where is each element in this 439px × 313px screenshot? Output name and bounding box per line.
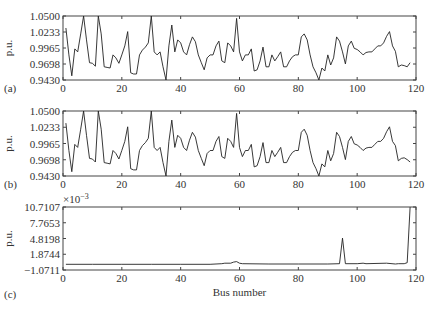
y-tick-label: 1.0233 — [30, 26, 61, 38]
x-tick-label: 20 — [116, 272, 128, 284]
x-tick-label: 60 — [234, 272, 246, 284]
x-tick-label: 0 — [60, 178, 66, 190]
y-tick-label: 1.0500 — [30, 105, 61, 117]
x-tick-label: 0 — [60, 82, 66, 94]
x-tick-label: 120 — [408, 272, 425, 284]
voltage-profile-figure: 0204060801001201.05001.02330.99650.96980… — [0, 0, 439, 313]
plot-frame-c — [63, 207, 416, 270]
x-tick-label: 0 — [60, 272, 66, 284]
x-axis-label: Bus number — [213, 286, 267, 298]
y-tick-label: −1.0711 — [24, 264, 60, 276]
x-tick-label: 40 — [175, 272, 187, 284]
x-tick-label: 20 — [116, 178, 128, 190]
y-tick-label: 1.0500 — [30, 10, 61, 22]
x-tick-label: 100 — [349, 272, 366, 284]
x-tick-label: 60 — [234, 178, 246, 190]
y-tick-label: 0.9698 — [30, 154, 61, 166]
y-tick-label: 0.9698 — [30, 58, 61, 70]
x-tick-label: 120 — [408, 82, 425, 94]
series-line-a — [66, 16, 410, 80]
y-tick-label: 0.9430 — [30, 74, 61, 86]
x-tick-label: 100 — [349, 82, 366, 94]
x-tick-label: 100 — [349, 178, 366, 190]
x-tick-label: 40 — [175, 82, 187, 94]
x-tick-label: 80 — [293, 272, 305, 284]
y-scale-multiplier: ×10−3 — [63, 192, 89, 205]
x-tick-label: 20 — [116, 82, 128, 94]
panel-label-b: (b) — [4, 178, 17, 191]
x-tick-label: 40 — [175, 178, 187, 190]
y-tick-label: 4.8198 — [30, 233, 61, 245]
y-axis-label: p.u. — [2, 135, 14, 152]
y-axis-label: p.u. — [2, 230, 14, 247]
x-tick-label: 80 — [293, 82, 305, 94]
y-tick-label: 0.9430 — [30, 170, 61, 182]
series-line-b — [66, 111, 410, 176]
x-tick-label: 60 — [234, 82, 246, 94]
y-tick-label: 1.8744 — [30, 248, 61, 260]
series-line-c — [66, 207, 410, 264]
y-tick-label: 7.7653 — [30, 217, 61, 229]
x-tick-label: 80 — [293, 178, 305, 190]
panel-label-c: (c) — [4, 288, 17, 301]
y-tick-label: 1.0233 — [30, 121, 61, 133]
x-tick-label: 120 — [408, 178, 425, 190]
y-tick-label: 10.7107 — [24, 201, 60, 213]
y-axis-label: p.u. — [2, 40, 14, 57]
panel-label-a: (a) — [4, 82, 17, 95]
y-tick-label: 0.9965 — [30, 138, 61, 150]
y-tick-label: 0.9965 — [30, 42, 61, 54]
